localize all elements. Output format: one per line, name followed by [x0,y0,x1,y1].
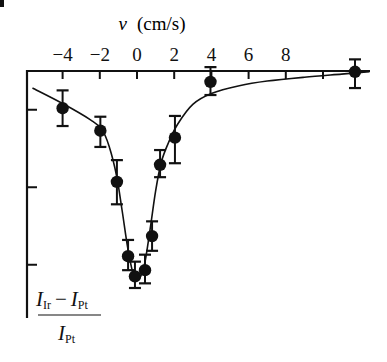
marker-circle [169,131,181,143]
y-axis-label: IIr−IPt IPt [35,287,101,346]
data-point [139,255,151,284]
data-point [122,240,134,270]
x-tick-label: −2 [90,44,110,65]
svg-text:IIr−IPt: IIr−IPt [35,287,89,312]
data-point [56,90,68,126]
marker-circle [146,230,158,242]
x-tick-label: 4 [207,44,217,65]
axes: −4−202468 [27,44,370,318]
x-tick-label: −4 [52,44,73,65]
x-tick-label: 6 [244,44,254,65]
marker-circle [56,102,68,114]
fit-curve [32,72,369,280]
marker-circle [94,124,106,136]
x-tick-label: 8 [281,44,291,65]
marker-circle [204,76,216,88]
x-axis-label: v(cm/s) [119,13,186,35]
x-tick-label: 2 [169,44,179,65]
data-point [94,117,106,147]
data-points [56,59,361,288]
data-point [349,59,361,88]
data-point [111,160,123,204]
x-tick-label: 0 [132,44,142,65]
fit-line [32,72,369,280]
marker-circle [111,176,123,188]
marker-circle [349,66,361,78]
marker-circle [154,159,166,171]
svg-text:IPt: IPt [57,321,76,346]
chart-plot: −4−202468 v(cm/s) IIr−IPt IPt [0,0,387,362]
marker-circle [139,264,151,276]
